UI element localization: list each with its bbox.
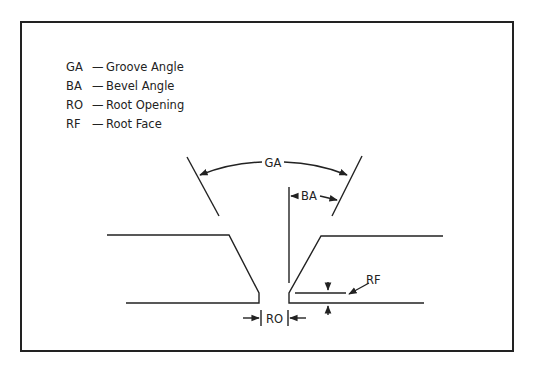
- rf-label: RF: [366, 273, 381, 287]
- legend-sep: —: [92, 60, 104, 74]
- legend-abbr: RF: [66, 117, 81, 131]
- legend-abbr: RO: [66, 98, 83, 112]
- legend: GA — Groove Angle BA — Bevel Angle RO — …: [66, 60, 184, 131]
- ga-arrow-left: [200, 162, 262, 175]
- ga-extension-left: [187, 157, 219, 216]
- legend-text: Groove Angle: [106, 60, 184, 74]
- ga-label: GA: [265, 156, 282, 170]
- legend-sep: —: [92, 117, 104, 131]
- legend-text: Root Face: [106, 117, 162, 131]
- legend-item-rf: RF — Root Face: [66, 117, 162, 131]
- ba-label: BA: [301, 189, 317, 203]
- legend-sep: —: [92, 98, 104, 112]
- ro-label: RO: [266, 312, 283, 326]
- legend-abbr: BA: [66, 79, 82, 93]
- legend-item-ba: BA — Bevel Angle: [66, 79, 174, 93]
- legend-sep: —: [92, 79, 104, 93]
- ga-extension-right: [332, 156, 362, 216]
- legend-text: Bevel Angle: [106, 79, 174, 93]
- weld-joint-diagram: GA — Groove Angle BA — Bevel Angle RO — …: [0, 0, 537, 371]
- ga-arrow-right: [284, 162, 347, 175]
- left-plate: [107, 235, 259, 303]
- legend-item-ro: RO — Root Opening: [66, 98, 184, 112]
- legend-item-ga: GA — Groove Angle: [66, 60, 184, 74]
- legend-abbr: GA: [66, 60, 83, 74]
- legend-text: Root Opening: [106, 98, 184, 112]
- ba-arrow-right: [320, 196, 337, 200]
